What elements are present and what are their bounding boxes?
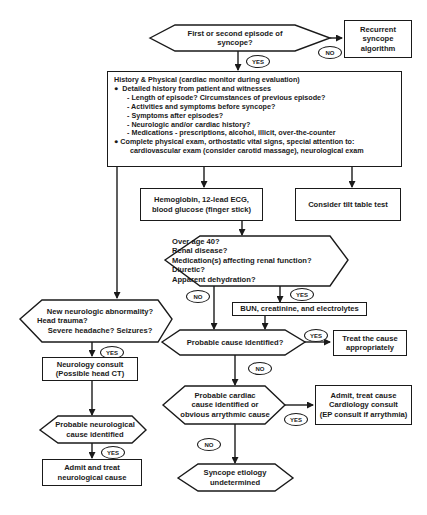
no-label: NO [186,290,210,303]
yes-label: YES [246,55,270,68]
neuro-cause-line: Probable neurological [55,420,135,429]
yes-label: YES [290,288,314,301]
tilt-table-box: Consider tilt table test [295,188,401,221]
start-decision: First or second episode of syncope? [175,25,295,51]
bun-box: BUN, creatinine, and electrolytes [232,302,367,316]
probable-text: Probable cause identified? [187,338,284,347]
recurrent-syncope-box: Recurrent syncope algorithm [344,20,412,58]
recurrent-line: Recurrent [360,25,396,34]
labs-box: Hemoglobin, 12-lead ECG, blood glucose (… [140,188,263,221]
treat-cause-box: Treat the cause appropriately [333,330,407,356]
neuro-consult-line: (Possible head CT) [56,369,124,378]
bullet-1-text: Detailed history from patient and witnes… [122,84,271,93]
admit-cardiac-box: Admit, treat cause Cardiology consult (E… [315,385,412,425]
admit-cardiac-line: Cardiology consult [329,400,398,409]
neuro-q-line: Head trauma? [35,316,88,325]
neuro-cause-decision: Probable neurological cause identified [45,416,145,443]
no-label: NO [318,46,342,59]
labs-line: Hemoglobin, 12-lead ECG, [154,195,249,204]
admit-cardiac-line: (EP consult if arrythmia) [320,410,408,419]
treat-line: Treat the cause [342,334,397,343]
bullet-2-text: Complete physical exam, orthostatic vita… [120,137,354,146]
cardiac-decision: Probable cardiac cause identified or obv… [170,386,280,424]
cardiac-line: obvious arrythmic cause [180,410,269,419]
renal-decision: Over age 40? Renal disease? Medication(s… [172,237,342,287]
recurrent-line: syncope [363,34,394,43]
renal-line: Medication(s) affecting renal function? [172,256,312,265]
neuro-q-line: New neurologic abnormality? [47,307,153,316]
renal-line: Apparent dehydration? [172,275,256,284]
treat-line: appropriately [346,343,394,352]
renal-line: Over age 40? [172,237,220,246]
cardiac-line: Probable cardiac [194,391,255,400]
no-label: NO [248,362,272,375]
cardiac-line: cause identified or [191,400,258,409]
neuro-consult-line: Neurology consult [57,360,124,369]
start-text: First or second episode of syncope? [175,29,295,48]
admit-neuro-line: Admit and treat [64,463,120,472]
tilt-text: Consider tilt table test [308,200,388,209]
recurrent-line: algorithm [361,44,396,53]
history-bullet-2-cont: cardiovascular exam (consider carotid ma… [114,147,364,156]
yes-label: YES [101,446,125,459]
neuro-question-decision: New neurologic abnormality? Head trauma?… [35,300,165,342]
neuro-cause-line: cause identified [66,430,123,439]
neuro-q-line: Severe headache? Seizures? [48,326,153,335]
renal-line: Diuretic? [172,265,205,274]
neurology-consult-box: Neurology consult (Possible head CT) [42,357,138,381]
undetermined-terminal: Syncope etiology undetermined [185,464,285,491]
labs-line: blood glucose (finger stick) [152,205,251,214]
history-physical-box: History & Physical (cardiac monitor duri… [107,71,402,167]
undetermined-line: Syncope etiology [204,468,267,477]
admit-cardiac-line: Admit, treat cause [331,391,397,400]
no-label: NO [197,438,221,451]
yes-label: YES [284,413,308,426]
admit-neuro-line: neurological cause [58,473,127,482]
undetermined-line: undetermined [210,478,260,487]
admit-neuro-box: Admit and treat neurological cause [42,459,142,486]
bun-text: BUN, creatinine, and electrolytes [240,304,359,313]
probable-cause-decision: Probable cause identified? [175,330,295,355]
yes-label: YES [304,329,328,342]
renal-line: Renal disease? [172,246,227,255]
